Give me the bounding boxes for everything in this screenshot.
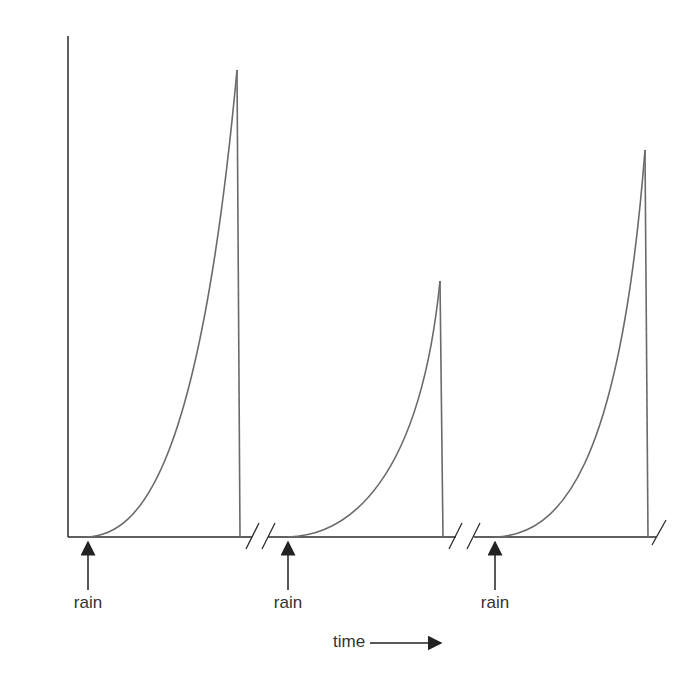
population-curve-1: [87, 70, 237, 537]
population-curve-2: [288, 281, 440, 537]
axis-break-icon: [449, 523, 480, 549]
crash-line-2: [440, 281, 443, 537]
rain-label: rain: [74, 593, 102, 613]
rain-label: rain: [274, 593, 302, 613]
diagram-canvas: [0, 0, 690, 683]
crash-line-3: [645, 150, 648, 537]
rain-label: rain: [481, 593, 509, 613]
population-curve-3: [495, 150, 645, 537]
axis-break-icon: [246, 523, 275, 549]
crash-line-1: [237, 70, 240, 537]
axis-end-slash-icon: [652, 520, 666, 545]
population-cycle-diagram: number of adult insects rain rain rain t…: [0, 0, 690, 683]
x-axis-label: time: [333, 632, 365, 652]
